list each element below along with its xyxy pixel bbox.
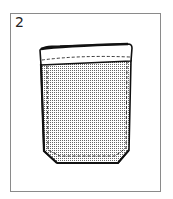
pocket-illustration [0,0,173,199]
pocket-body [41,60,131,163]
